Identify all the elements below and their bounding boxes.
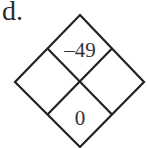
bottom-cell-value: 0: [55, 108, 105, 129]
top-cell-value: –49: [55, 40, 105, 61]
